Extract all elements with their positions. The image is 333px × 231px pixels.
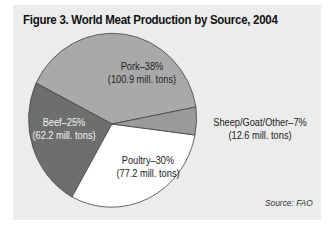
label-poultry-name: Poultry–30%: [106, 154, 190, 167]
label-sheep-amount: (12.6 mill. tons): [207, 129, 313, 142]
label-pork-amount: (100.9 mill. tons): [98, 73, 186, 86]
label-poultry: Poultry–30% (77.2 mill. tons): [106, 154, 190, 180]
label-poultry-amount: (77.2 mill. tons): [106, 167, 190, 180]
label-pork-name: Pork–38%: [98, 60, 186, 73]
label-sheep-name: Sheep/Goat/Other–7%: [207, 116, 313, 129]
label-beef: Beef–25% (62.2 mill. tons): [27, 116, 101, 142]
label-beef-name: Beef–25%: [27, 116, 101, 129]
source-note: Source: FAO: [265, 197, 313, 208]
label-sheep-goat-other: Sheep/Goat/Other–7% (12.6 mill. tons): [207, 116, 313, 142]
label-beef-amount: (62.2 mill. tons): [27, 129, 101, 142]
label-pork: Pork–38% (100.9 mill. tons): [98, 60, 186, 86]
